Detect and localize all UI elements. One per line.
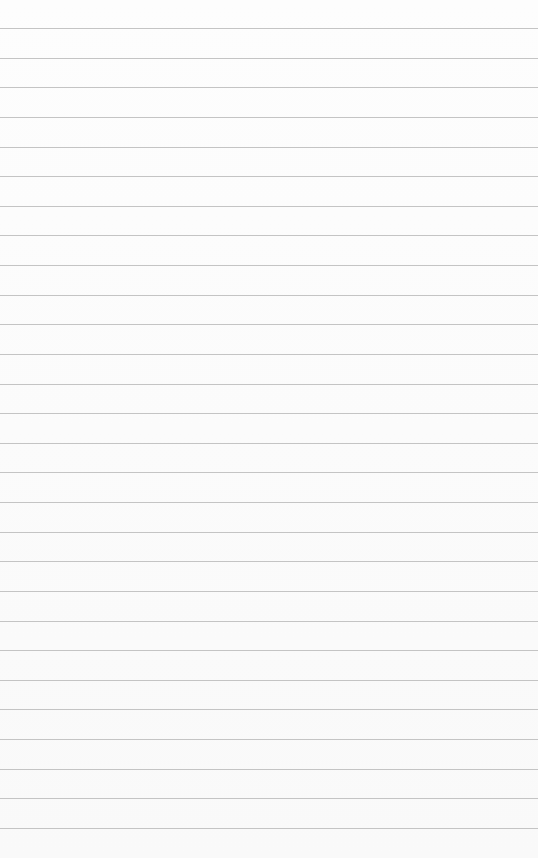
ruled-line [0, 561, 538, 562]
ruled-line [0, 650, 538, 651]
ruled-line [0, 384, 538, 385]
ruled-line [0, 28, 538, 29]
ruled-line [0, 621, 538, 622]
ruled-line [0, 324, 538, 325]
ruled-line [0, 58, 538, 59]
ruled-line [0, 502, 538, 503]
ruled-line [0, 680, 538, 681]
ruled-line [0, 798, 538, 799]
ruled-line [0, 739, 538, 740]
ruled-line [0, 295, 538, 296]
ruled-line [0, 354, 538, 355]
ruled-line [0, 532, 538, 533]
ruled-line [0, 591, 538, 592]
ruled-line [0, 117, 538, 118]
ruled-line [0, 472, 538, 473]
lined-paper [0, 0, 538, 858]
ruled-line [0, 147, 538, 148]
ruled-line [0, 206, 538, 207]
ruled-line [0, 235, 538, 236]
ruled-line [0, 828, 538, 829]
ruled-line [0, 87, 538, 88]
ruled-line [0, 176, 538, 177]
ruled-line [0, 413, 538, 414]
ruled-line [0, 769, 538, 770]
ruled-line [0, 709, 538, 710]
ruled-line [0, 443, 538, 444]
ruled-line [0, 265, 538, 266]
